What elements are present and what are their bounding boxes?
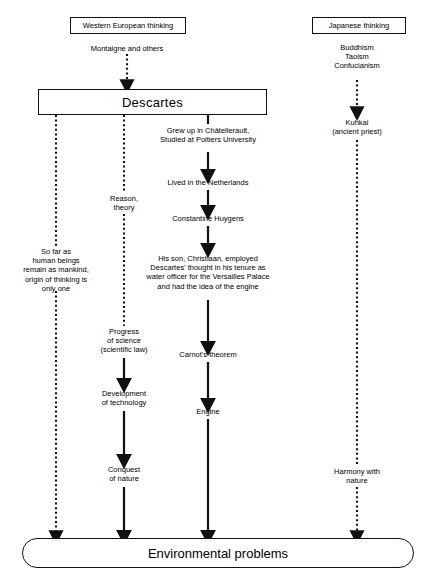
node-carnots-theorem: Carnot's theorem (179, 350, 236, 359)
node-harmony-with-nature: Harmony with nature (334, 467, 380, 485)
box-japanese-label: Japanese thinking (329, 21, 389, 30)
node-eastern-roots: Buddhism Taoism Confucianism (334, 43, 379, 71)
box-final-label: Environmental problems (148, 546, 288, 561)
node-constantine-huygens: Constantine Huygens (172, 214, 244, 223)
box-western-label: Western European thinking (83, 21, 173, 30)
diagram-canvas: Western European thinking Japanese think… (0, 0, 435, 577)
node-grew-up-studied: Grew up in Châtellerault, Studied at Poi… (160, 126, 256, 144)
box-environmental-problems[interactable]: Environmental problems (22, 538, 414, 568)
node-development-of-technology: Development of technology (102, 389, 147, 407)
box-descartes[interactable]: Descartes (38, 89, 267, 115)
box-japanese-thinking[interactable]: Japanese thinking (312, 17, 406, 34)
node-lived-in-netherlands: Lived in the Netherlands (168, 178, 249, 187)
node-engine: Engine (196, 407, 219, 416)
box-descartes-label: Descartes (122, 95, 183, 110)
node-progress-of-science: Progress of science (scientific law) (100, 327, 147, 355)
node-kuhkai: Kuhkai (ancient priest) (332, 118, 382, 136)
node-conquest-of-nature: Conquest of nature (108, 465, 140, 483)
node-christiaan-engine-idea: His son, Christiaan, employed Descartes'… (146, 254, 269, 291)
node-origin-of-thinking: So far as human beings remain as mankind… (23, 247, 88, 293)
node-reason-theory: Reason, theory (110, 194, 138, 212)
node-montaigne: Montaigne and others (91, 44, 164, 53)
box-western-european-thinking[interactable]: Western European thinking (70, 17, 186, 34)
